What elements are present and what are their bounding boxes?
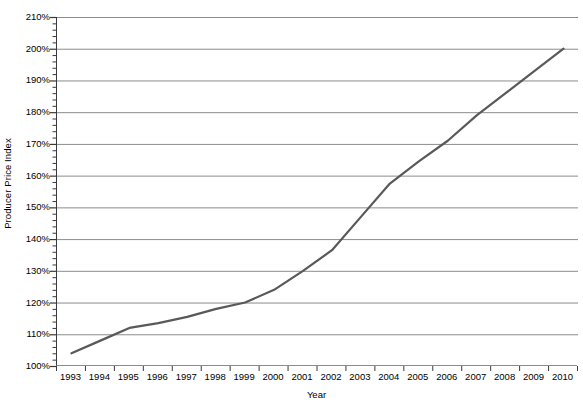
x-axis-tick-label: 2004 — [374, 371, 403, 383]
y-axis-tick-label: 170% — [14, 139, 50, 149]
series-line — [71, 49, 563, 354]
x-axis-tick-label: 2000 — [259, 371, 288, 383]
x-axis-tick-label: 1999 — [230, 371, 259, 383]
x-axis-tick-label: 2008 — [490, 371, 519, 383]
x-axis-tick-label: 2005 — [403, 371, 432, 383]
y-axis-tick-label: 160% — [14, 171, 50, 181]
y-axis-tick-labels: 100%110%120%130%140%150%160%170%180%190%… — [12, 0, 50, 406]
x-axis-tick-label: 1998 — [201, 371, 230, 383]
x-axis-tick-label: 2006 — [432, 371, 461, 383]
x-axis-tick-label: 2002 — [317, 371, 346, 383]
x-axis-tick-label: 1994 — [85, 371, 114, 383]
y-axis-tick-label: 210% — [14, 12, 50, 22]
x-axis-tick-label: 1997 — [172, 371, 201, 383]
x-axis-tick-label: 1995 — [114, 371, 143, 383]
x-axis-tick-label: 1993 — [56, 371, 85, 383]
x-axis-tick-label: 2009 — [519, 371, 548, 383]
y-axis-tick-label: 100% — [14, 361, 50, 371]
y-axis-tick-label: 130% — [14, 266, 50, 276]
y-axis-title-text: Producer Price Index — [2, 138, 13, 229]
y-axis-tick-label: 190% — [14, 75, 50, 85]
data-series-group — [71, 49, 563, 354]
x-axis-tick-label: 2007 — [461, 371, 490, 383]
plot-area — [56, 17, 577, 366]
y-axis-tick-label: 200% — [14, 44, 50, 54]
y-axis-tick-label: 110% — [14, 329, 50, 339]
plot-svg — [57, 17, 578, 366]
y-axis-tick-label: 180% — [14, 107, 50, 117]
x-axis-tick-label: 2003 — [345, 371, 374, 383]
x-axis-tick-label: 1996 — [143, 371, 172, 383]
producer-price-index-chart: Producer Price Index 100%110%120%130%140… — [0, 0, 583, 406]
x-axis-tick-label: 2001 — [288, 371, 317, 383]
y-axis-tick-label: 120% — [14, 298, 50, 308]
x-axis-tick-labels: 1993199419951996199719981999200020012002… — [0, 371, 583, 385]
x-axis-title: Year — [56, 389, 577, 400]
y-axis-tick-label: 140% — [14, 234, 50, 244]
x-axis-tick-label: 2010 — [548, 371, 577, 383]
horizontal-gridlines — [57, 18, 578, 335]
y-axis-tick-label: 150% — [14, 202, 50, 212]
